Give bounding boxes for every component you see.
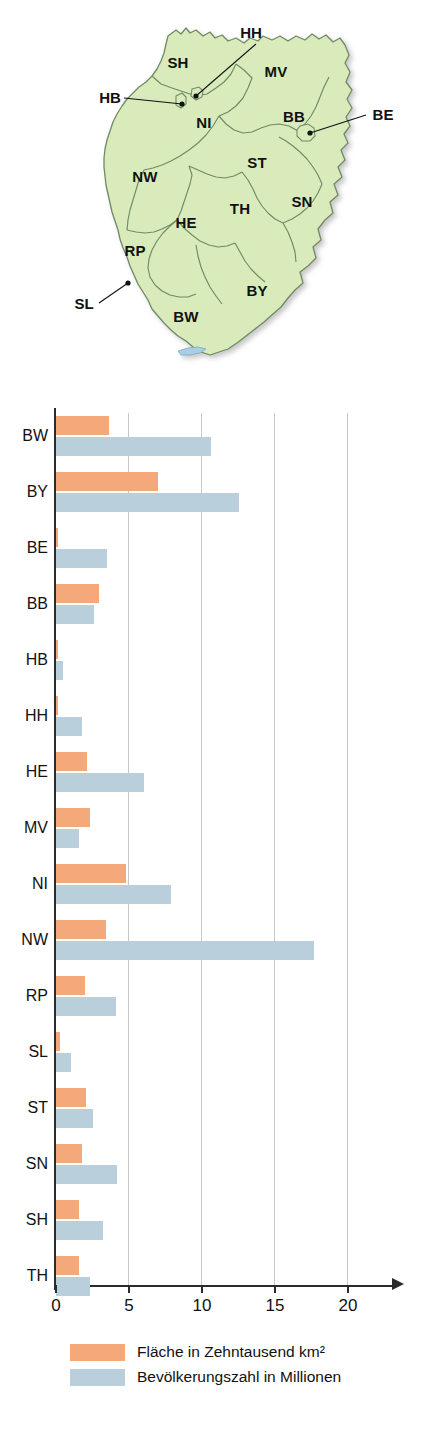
row-label-BE: BE [0,539,48,557]
bar-population-HH [56,717,82,736]
row-label-NI: NI [0,875,48,893]
callout-dot-SL [125,280,130,285]
x-ticklabel-10: 10 [193,1296,212,1316]
bar-population-BB [56,605,94,624]
chart-row-ST [56,1085,348,1141]
bar-population-NW [56,941,314,960]
legend-swatch-area [70,1344,125,1361]
germany-map-figure: SH MV NI BB NW ST HE TH SN RP BW BY HH H… [0,0,428,378]
bar-population-BY [56,493,239,512]
bar-population-BE [56,549,107,568]
bar-population-SH [56,1221,103,1240]
map-label-NI: NI [196,114,211,131]
bar-area-SN [56,1144,82,1163]
bar-population-SL [56,1053,71,1072]
map-label-SN: SN [291,193,312,210]
chart-row-BY [56,469,348,525]
map-label-BY: BY [246,282,267,299]
map-label-SL: SL [74,295,93,312]
x-tick-20 [347,1285,349,1293]
row-label-ST: ST [0,1099,48,1117]
map-label-HH: HH [240,24,262,41]
bar-population-HB [56,661,63,680]
germany-map-svg: SH MV NI BB NW ST HE TH SN RP BW BY HH H… [0,0,428,378]
x-ticklabel-15: 15 [266,1296,285,1316]
chart-row-SN [56,1141,348,1197]
germany-outline-group [104,28,352,355]
callout-dot-HH [193,93,198,98]
row-label-RP: RP [0,987,48,1005]
row-label-HB: HB [0,651,48,669]
legend-swatch-population [70,1369,125,1386]
bar-area-HE [56,752,87,771]
chart-row-SH [56,1197,348,1253]
bar-population-SN [56,1165,117,1184]
chart-legend: Fläche in Zehntausend km² Bevölkerungsza… [70,1343,420,1393]
bar-population-BW [56,437,211,456]
chart-row-MV [56,805,348,861]
callout-dot-HB [179,101,184,106]
row-label-NW: NW [0,931,48,949]
bar-area-BB [56,584,99,603]
bar-area-NW [56,920,106,939]
x-tick-0 [55,1285,57,1293]
chart-row-HE [56,749,348,805]
callout-dot-BE [307,130,312,135]
row-label-BW: BW [0,427,48,445]
chart-row-BB [56,581,348,637]
bar-area-HH [56,696,58,715]
chart-row-HH [56,693,348,749]
bar-area-SL [56,1032,60,1051]
x-tick-5 [128,1285,130,1293]
bar-area-SH [56,1200,79,1219]
bar-area-ST [56,1088,86,1107]
bar-area-MV [56,808,90,827]
chart-row-RP [56,973,348,1029]
bar-area-BY [56,472,158,491]
legend-label-area: Fläche in Zehntausend km² [137,1343,325,1361]
row-label-SL: SL [0,1043,48,1061]
chart-row-BW [56,413,348,469]
chart-row-SL [56,1029,348,1085]
chart-row-NI [56,861,348,917]
bar-population-NI [56,885,171,904]
x-ticklabel-0: 0 [51,1296,60,1316]
bar-area-BW [56,416,109,435]
map-label-RP: RP [124,242,145,259]
map-label-HB: HB [99,89,121,106]
bar-population-ST [56,1109,93,1128]
bar-population-MV [56,829,79,848]
row-label-TH: TH [0,1267,48,1285]
x-ticklabel-20: 20 [339,1296,358,1316]
map-label-SH: SH [167,54,188,71]
map-label-TH: TH [230,200,250,217]
bar-area-RP [56,976,85,995]
bar-area-TH [56,1256,79,1275]
map-label-BE: BE [373,106,394,123]
legend-item-population: Bevölkerungszahl in Millionen [70,1368,420,1386]
row-label-HE: HE [0,763,48,781]
bar-area-NI [56,864,126,883]
callout-line-SL [99,283,128,303]
map-label-MV: MV [265,63,288,80]
x-axis-arrow [392,1278,404,1290]
bar-area-HB [56,640,58,659]
bar-population-HE [56,773,144,792]
map-label-NW: NW [132,168,158,185]
bodensee [178,347,206,355]
row-label-SN: SN [0,1155,48,1173]
map-label-ST: ST [247,154,267,171]
row-label-BY: BY [0,483,48,501]
row-label-MV: MV [0,819,48,837]
x-tick-15 [274,1285,276,1293]
map-label-HE: HE [175,214,196,231]
bar-population-TH [56,1277,90,1296]
x-tick-10 [201,1285,203,1293]
map-label-BW: BW [173,308,199,325]
x-ticklabel-5: 5 [124,1296,133,1316]
bar-chart-figure: Fläche in Zehntausend km² Bevölkerungsza… [0,378,428,1431]
chart-row-HB [56,637,348,693]
bar-population-RP [56,997,116,1016]
chart-row-BE [56,525,348,581]
row-label-SH: SH [0,1211,48,1229]
